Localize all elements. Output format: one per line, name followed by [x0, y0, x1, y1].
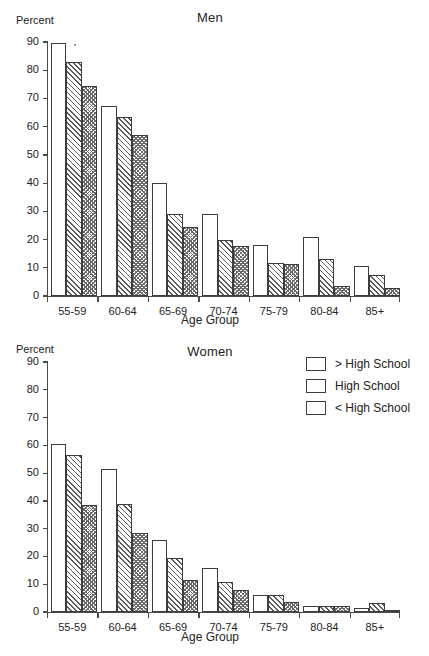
- y-tick-mark: [43, 556, 48, 557]
- x-tick-mark: [97, 297, 98, 302]
- legend-label: High School: [335, 379, 400, 393]
- x-tick-mark: [148, 297, 149, 302]
- x-tick-label: 85+: [350, 306, 400, 317]
- bar: [101, 469, 117, 612]
- y-tick-mark: [43, 361, 48, 362]
- y-tick-label: 0: [7, 290, 39, 301]
- y-tick-label: 40: [7, 495, 39, 506]
- bar: [233, 246, 249, 296]
- bar: [82, 505, 98, 613]
- x-tick-mark: [47, 613, 48, 618]
- y-tick-label: 80: [7, 64, 39, 75]
- y-tick-label: 90: [7, 356, 39, 367]
- bar: [218, 240, 234, 296]
- bar: [369, 603, 385, 612]
- bar: [253, 595, 269, 612]
- chart-panel-women: Women Percent 010203040506070809055-5960…: [0, 330, 429, 656]
- x-tick-label: 80-84: [299, 622, 349, 633]
- y-tick-label: 20: [7, 234, 39, 245]
- bar: [183, 580, 199, 612]
- y-tick-mark: [43, 70, 48, 71]
- bar: [66, 455, 82, 612]
- bar: [233, 590, 249, 612]
- x-tick-mark: [299, 297, 300, 302]
- bar: [167, 214, 183, 296]
- legend-item: < High School: [306, 399, 410, 416]
- bar: [117, 504, 133, 612]
- y-tick-label: 80: [7, 384, 39, 395]
- x-tick-mark: [299, 613, 300, 618]
- legend-item: High School: [306, 377, 400, 394]
- y-tick-label: 10: [7, 578, 39, 589]
- x-tick-mark: [249, 613, 250, 618]
- x-tick-mark: [249, 297, 250, 302]
- stray-speck: [74, 44, 76, 46]
- y-tick-label: 0: [7, 606, 39, 617]
- bar: [132, 135, 148, 296]
- y-tick-label: 60: [7, 121, 39, 132]
- y-tick-label: 50: [7, 467, 39, 478]
- y-tick-mark: [43, 267, 48, 268]
- y-tick-mark: [43, 445, 48, 446]
- bar: [268, 595, 284, 612]
- y-tick-mark: [43, 211, 48, 212]
- bar: [303, 237, 319, 296]
- legend-swatch-cross-hatch: [306, 401, 326, 415]
- bar: [202, 568, 218, 612]
- y-tick-label: 20: [7, 550, 39, 561]
- y-axis-women: [47, 361, 48, 613]
- bar: [132, 533, 148, 612]
- bar: [385, 288, 401, 296]
- bar: [66, 62, 82, 296]
- bar: [51, 444, 67, 612]
- legend-label: < High School: [335, 401, 410, 415]
- x-tick-mark: [148, 613, 149, 618]
- y-tick-mark: [43, 183, 48, 184]
- bar: [152, 183, 168, 296]
- x-tick-mark: [47, 297, 48, 302]
- x-tick-mark: [198, 297, 199, 302]
- bar: [82, 86, 98, 296]
- x-tick-mark: [97, 613, 98, 618]
- x-tick-label: 55-59: [47, 306, 97, 317]
- y-tick-mark: [43, 473, 48, 474]
- y-tick-mark: [43, 98, 48, 99]
- y-tick-label: 30: [7, 523, 39, 534]
- y-tick-mark: [43, 41, 48, 42]
- bar: [369, 275, 385, 296]
- bar: [218, 582, 234, 612]
- y-tick-label: 10: [7, 262, 39, 273]
- y-tick-mark: [43, 528, 48, 529]
- x-tick-mark: [399, 297, 400, 302]
- legend: > High SchoolHigh School< High School: [306, 355, 429, 419]
- y-tick-mark: [43, 239, 48, 240]
- x-axis-women: [47, 612, 400, 613]
- bar: [284, 602, 300, 612]
- bar: [152, 540, 168, 612]
- y-tick-mark: [43, 126, 48, 127]
- bar: [319, 259, 335, 296]
- bar: [167, 558, 183, 612]
- y-tick-mark: [43, 154, 48, 155]
- bar: [183, 227, 199, 296]
- bar: [101, 106, 117, 297]
- bar: [268, 263, 284, 296]
- legend-swatch-diagonal: [306, 379, 326, 393]
- x-tick-label: 85+: [350, 622, 400, 633]
- x-tick-mark: [198, 613, 199, 618]
- x-tick-mark: [350, 297, 351, 302]
- y-tick-mark: [43, 417, 48, 418]
- y-tick-label: 90: [7, 36, 39, 47]
- y-tick-label: 50: [7, 149, 39, 160]
- bar: [354, 608, 370, 612]
- x-tick-mark: [399, 613, 400, 618]
- bar: [334, 286, 350, 296]
- y-axis-men: [47, 41, 48, 297]
- x-axis-men: [47, 296, 400, 297]
- bar: [303, 606, 319, 612]
- legend-item: > High School: [306, 355, 410, 372]
- bar: [253, 245, 269, 296]
- x-tick-label: 55-59: [47, 622, 97, 633]
- x-tick-label: 80-84: [299, 306, 349, 317]
- legend-label: > High School: [335, 357, 410, 371]
